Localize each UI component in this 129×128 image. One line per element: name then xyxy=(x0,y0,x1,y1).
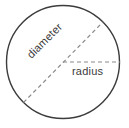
circle-diagram: diameter radius xyxy=(0,0,129,128)
radius-label: radius xyxy=(72,66,103,77)
diagram-canvas xyxy=(0,0,129,128)
